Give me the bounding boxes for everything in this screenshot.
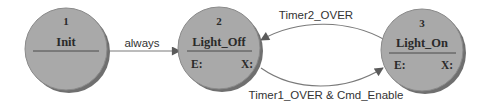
edge-curve: [261, 68, 383, 86]
state-name: Light_On: [396, 36, 448, 50]
state-entry-label: E:: [191, 58, 203, 70]
state-light-on[interactable]: 3 Light_On E: X:: [381, 9, 466, 94]
transition-light-off-to-light-on[interactable]: Timer1_OVER & Cmd_Enable: [249, 68, 404, 101]
state-exit-label: X:: [441, 59, 453, 71]
transition-init-to-light-off[interactable]: always: [108, 37, 180, 51]
state-exit-label: X:: [241, 58, 253, 70]
state-number: 2: [216, 15, 222, 27]
state-light-off[interactable]: 2 Light_Off E: X:: [178, 7, 263, 92]
state-entry-label: E:: [394, 59, 406, 71]
state-diagram: always Timer2_OVER Timer1_OVER & Cmd_Ena…: [0, 0, 490, 109]
state-init[interactable]: 1 Init: [25, 8, 110, 93]
edge-curve: [261, 24, 385, 40]
state-name: Light_Off: [192, 35, 246, 49]
transition-label: always: [124, 37, 159, 49]
transition-label: Timer2_OVER: [279, 9, 353, 21]
state-number: 1: [63, 15, 69, 27]
transition-light-on-to-light-off[interactable]: Timer2_OVER: [261, 9, 385, 40]
state-name: Init: [56, 35, 76, 49]
state-number: 3: [419, 17, 425, 29]
transition-label: Timer1_OVER & Cmd_Enable: [249, 89, 404, 101]
